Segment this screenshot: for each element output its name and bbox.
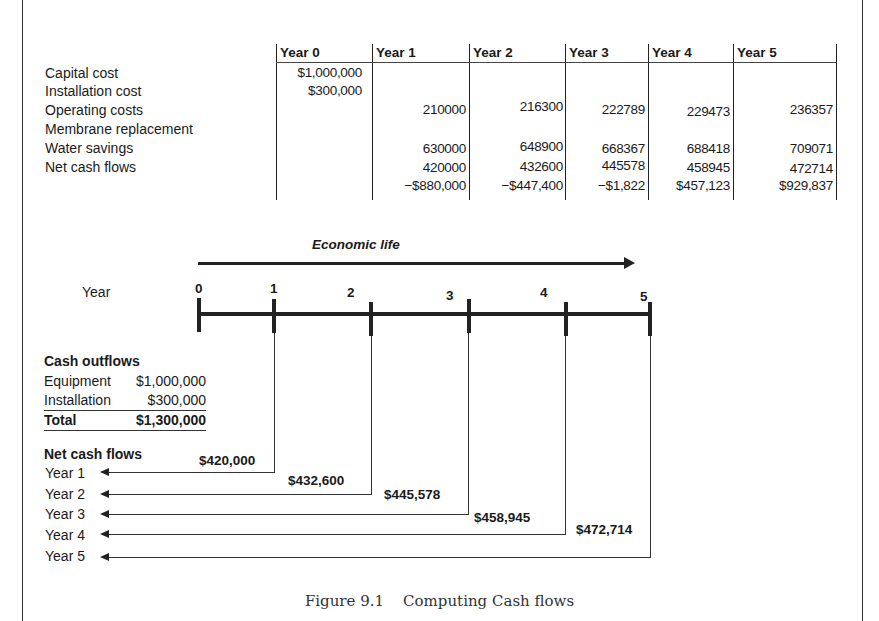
connector-line [108, 472, 275, 473]
ncf-amount-2: $432,600 [288, 473, 344, 488]
table-header-year-2: Year 2 [473, 45, 513, 61]
table-header-year-3: Year 3 [569, 45, 609, 61]
arrow-left-icon [100, 510, 109, 518]
table-cell-cumulative: −$1,822 [565, 177, 645, 195]
ncf-amount-5: $472,714 [576, 522, 632, 537]
subtotal-rule [44, 410, 206, 411]
connector-line [108, 494, 372, 495]
table-cell: 216300 [469, 98, 563, 116]
outflow-total-label: Total [44, 412, 76, 429]
tick-label-0: 0 [195, 281, 203, 296]
arrow-right-icon [624, 257, 635, 269]
table-header-year-1: Year 1 [376, 45, 416, 61]
economic-life-arrow [198, 262, 626, 265]
connector-line [108, 514, 469, 515]
tick-mark [564, 302, 568, 336]
arrow-left-icon [100, 490, 109, 498]
table-cell: $300,000 [276, 82, 362, 100]
table-cell: $1,000,000 [276, 64, 362, 82]
table-header-year-0: Year 0 [280, 45, 320, 61]
row-label-water-savings: Water savings [45, 139, 133, 157]
page-border-right [862, 0, 863, 621]
table-cell: 630000 [372, 140, 466, 158]
table-header-year-5: Year 5 [737, 45, 777, 61]
connector-line [108, 534, 566, 535]
table-cell: 222789 [565, 101, 645, 119]
column-divider [836, 44, 837, 200]
table-cell: 472714 [733, 160, 833, 178]
tick-mark [648, 302, 652, 336]
table-cell: 648900 [469, 138, 563, 156]
row-label-capital-cost: Capital cost [45, 64, 118, 82]
row-label-operating-costs: Operating costs [45, 101, 143, 119]
arrow-left-icon [100, 553, 109, 561]
page-border-left [22, 0, 23, 621]
ncf-year-5: Year 5 [45, 548, 85, 564]
table-cell: 668367 [565, 140, 645, 158]
year-axis-label: Year [82, 284, 110, 300]
table-cell-cumulative: $929,837 [733, 177, 833, 195]
table-header-year-4: Year 4 [652, 45, 692, 61]
economic-life-label: Economic life [312, 237, 400, 252]
ncf-year-2: Year 2 [45, 486, 85, 502]
table-cell-cumulative: −$447,400 [469, 177, 563, 195]
tick-label-4: 4 [540, 285, 548, 300]
tick-label-3: 3 [446, 288, 454, 303]
timeline-axis [198, 312, 651, 316]
cash-outflows-title: Cash outflows [44, 353, 140, 369]
total-rule [44, 430, 206, 431]
table-cell: 432600 [469, 158, 563, 176]
tick-label-2: 2 [347, 285, 355, 300]
outflow-label: Equipment [44, 373, 111, 390]
row-label-installation-cost: Installation cost [45, 82, 142, 100]
arrow-left-icon [100, 468, 109, 476]
ncf-amount-3: $445,578 [384, 487, 440, 502]
ncf-amount-1: $420,000 [199, 453, 255, 468]
table-cell-cumulative: −$880,000 [372, 177, 466, 195]
tick-mark [197, 298, 201, 332]
row-label-net-cash-flows: Net cash flows [45, 158, 136, 176]
ncf-year-3: Year 3 [45, 506, 85, 522]
tick-label-5: 5 [640, 289, 648, 304]
tick-mark [272, 299, 276, 333]
ncf-year-4: Year 4 [45, 527, 85, 543]
table-cell: 688418 [648, 140, 730, 158]
connector-line [468, 333, 469, 515]
connector-line [650, 336, 651, 558]
tick-mark [369, 302, 373, 336]
figure-caption: Figure 9.1 Computing Cash flows [0, 592, 879, 610]
table-cell: 229473 [648, 103, 730, 121]
table-cell: 709071 [733, 140, 833, 158]
outflow-value: $300,000 [148, 392, 206, 409]
connector-line [108, 557, 651, 558]
net-cash-flows-title: Net cash flows [44, 446, 142, 462]
tick-mark [467, 299, 471, 333]
outflow-total-value: $1,300,000 [136, 412, 206, 429]
outflow-label: Installation [44, 392, 111, 409]
table-cell: 236357 [733, 101, 833, 119]
ncf-year-1: Year 1 [45, 465, 85, 481]
table-cell: 420000 [372, 159, 466, 177]
table-cell: 445578 [565, 157, 645, 175]
header-rule [276, 62, 836, 63]
connector-line [371, 336, 372, 494]
table-cell: 210000 [372, 101, 466, 119]
outflow-value: $1,000,000 [136, 373, 206, 390]
ncf-amount-4: $458,945 [474, 510, 530, 525]
row-label-membrane-replacement: Membrane replacement [45, 120, 193, 138]
tick-label-1: 1 [270, 281, 278, 296]
table-cell: 458945 [648, 159, 730, 177]
arrow-left-icon [100, 530, 109, 538]
connector-line [565, 336, 566, 535]
table-cell-cumulative: $457,123 [648, 177, 730, 195]
connector-line [274, 333, 275, 472]
